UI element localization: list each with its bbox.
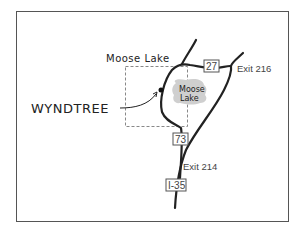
exit-214-label: Exit 214 [183, 161, 217, 172]
i35-label: I-35 [168, 180, 186, 191]
hwy-73-label: 73 [175, 134, 187, 145]
map-canvas: Moose Lake 27 73 I-35 Exit 216 Exit 214 … [0, 0, 306, 237]
lake-label-2: Lake [180, 94, 199, 103]
town-label: Moose Lake [106, 53, 170, 64]
wyndtree-marker [159, 88, 164, 93]
hwy-27-label: 27 [206, 61, 218, 72]
destination-label: WYNDTREE [31, 101, 109, 116]
lake-label: Moose [179, 85, 205, 94]
exit-216-label: Exit 216 [237, 63, 271, 74]
arrow-icon [120, 94, 156, 108]
road-north [182, 40, 196, 64]
